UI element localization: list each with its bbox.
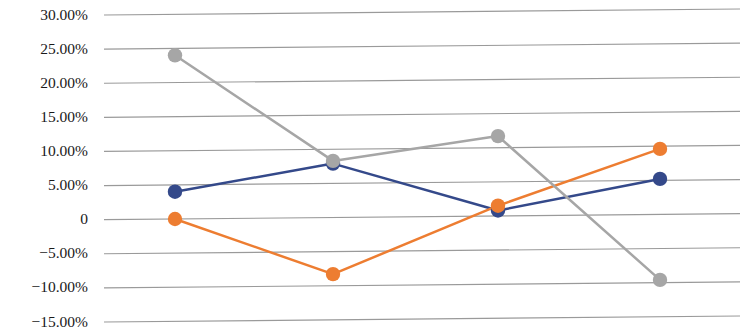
gridline (104, 316, 740, 322)
y-axis-tick-label: 30.00% (40, 6, 88, 23)
y-axis-tick-labels: 30.00%25.00%20.00%15.00%10.00%5.00%0−5.0… (31, 6, 88, 330)
gridline (104, 282, 740, 288)
data-point-marker (168, 212, 182, 226)
y-axis-tick-label: 5.00% (48, 176, 88, 193)
y-axis-tick-label: 15.00% (40, 108, 88, 125)
data-point-marker (168, 48, 182, 62)
data-point-marker (326, 154, 340, 168)
series-line-2 (175, 149, 660, 274)
series-line-3 (175, 55, 660, 280)
y-axis-tick-label: −5.00% (39, 244, 88, 261)
data-point-marker (326, 267, 340, 281)
gridlines-group (104, 9, 740, 322)
gridline (104, 9, 740, 15)
series-line-1 (175, 164, 660, 211)
data-point-marker (491, 199, 505, 213)
chart-canvas: 30.00%25.00%20.00%15.00%10.00%5.00%0−5.0… (0, 0, 740, 333)
gridline (104, 43, 740, 49)
gridline (104, 214, 740, 220)
line-chart: 30.00%25.00%20.00%15.00%10.00%5.00%0−5.0… (0, 0, 740, 333)
data-point-marker (653, 142, 667, 156)
y-axis-tick-label: −15.00% (31, 313, 88, 330)
y-axis-tick-label: 10.00% (40, 142, 88, 159)
data-point-marker (653, 273, 667, 287)
y-axis-tick-label: 20.00% (40, 74, 88, 91)
series-lines-group (175, 55, 660, 280)
data-point-marker (168, 185, 182, 199)
data-point-marker (491, 129, 505, 143)
gridline (104, 248, 740, 254)
gridline (104, 77, 740, 83)
data-point-marker (653, 172, 667, 186)
gridline (104, 111, 740, 117)
y-axis-tick-label: 0 (80, 210, 88, 227)
y-axis-tick-label: −10.00% (31, 278, 88, 295)
y-axis-tick-label: 25.00% (40, 40, 88, 57)
